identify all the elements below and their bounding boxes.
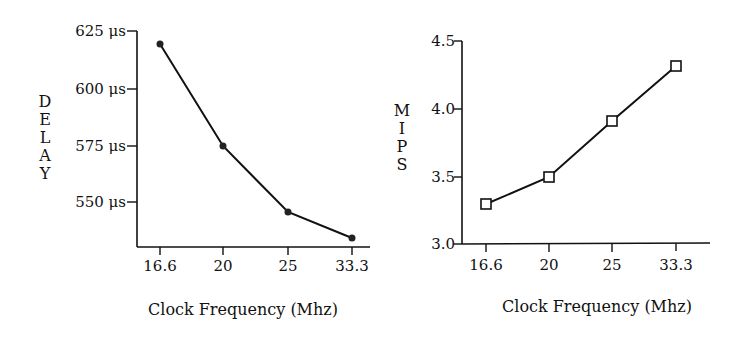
mips-chart: 4.5 4.0 3.5 3.0 16.6 20 25 33.3 M I P S …: [394, 32, 710, 316]
x-tick-label: 20: [213, 257, 232, 275]
y-axis-label-letter: E: [39, 110, 51, 129]
y-axis-label-letter: I: [399, 119, 405, 138]
y-tick-label: 4.0: [431, 100, 455, 118]
figure: 625 μs 600 μs 575 μs 550 μs 16.6 20 25 3…: [0, 0, 746, 341]
data-point: [481, 199, 491, 209]
x-tick-label: 25: [602, 256, 621, 274]
y-axis-label-letter: L: [40, 128, 51, 147]
data-point: [544, 172, 554, 182]
y-axis-label-letter: P: [397, 137, 408, 156]
mips-series-line: [486, 66, 676, 204]
data-point: [285, 209, 292, 216]
x-axis-label: Clock Frequency (Mhz): [502, 297, 692, 316]
y-tick-label: 625 μs: [75, 22, 126, 40]
x-tick-label: 33.3: [659, 256, 692, 274]
delay-chart: 625 μs 600 μs 575 μs 550 μs 16.6 20 25 3…: [38, 22, 370, 319]
y-axis-label-letter: Y: [39, 164, 51, 183]
y-tick-label: 4.5: [431, 32, 455, 50]
y-tick-label: 3.0: [431, 235, 455, 253]
data-point: [607, 116, 617, 126]
x-tick-label: 16.6: [143, 257, 176, 275]
delay-series-line: [160, 44, 352, 238]
data-point: [220, 143, 227, 150]
y-axis-label-letter: A: [38, 146, 51, 165]
data-point: [671, 61, 681, 71]
x-tick-label: 20: [539, 256, 558, 274]
y-axis-label-letter: D: [39, 92, 52, 111]
y-axis-label-letter: M: [394, 101, 410, 120]
x-tick-label: 16.6: [469, 256, 502, 274]
y-tick-label: 600 μs: [75, 80, 126, 98]
data-point: [349, 235, 356, 242]
y-tick-label: 550 μs: [75, 193, 126, 211]
x-axis: [462, 243, 710, 244]
x-tick-label: 25: [278, 257, 297, 275]
data-point: [157, 41, 164, 48]
x-axis-label: Clock Frequency (Mhz): [148, 300, 338, 319]
x-tick-label: 33.3: [335, 257, 368, 275]
y-tick-label: 575 μs: [75, 137, 126, 155]
y-axis-label-letter: S: [397, 155, 408, 174]
y-tick-label: 3.5: [431, 168, 455, 186]
